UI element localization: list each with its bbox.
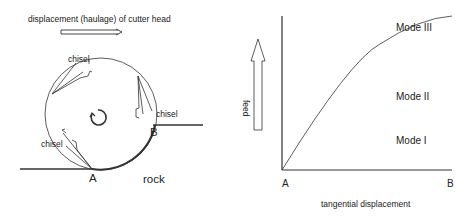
rotation-ccw-icon <box>90 110 106 125</box>
mode-2-label: Mode II <box>396 91 429 102</box>
point-b-label: B <box>150 126 158 138</box>
rock-label: rock <box>143 173 165 185</box>
contact-arc <box>92 125 155 170</box>
mode-3-label: Mode III <box>396 22 432 33</box>
feed-mode-chart: feed Mode III Mode II Mode I A B tangent… <box>241 16 454 209</box>
figure: displacement (haulage) of cutter head ch… <box>0 0 472 219</box>
chisel-label-bottom: chisel <box>41 139 63 149</box>
chisel-icon <box>136 76 152 118</box>
x-axis-label: tangential displacement <box>321 199 411 209</box>
mode-1-label: Mode I <box>396 135 427 146</box>
cutter-head-diagram: displacement (haulage) of cutter head ch… <box>20 14 203 185</box>
chisel-label-top: chisel <box>68 54 90 64</box>
feed-arrow-icon <box>251 39 265 130</box>
x-axis-start-label: A <box>282 178 289 189</box>
haulage-arrow-icon <box>61 29 122 35</box>
haulage-title: displacement (haulage) of cutter head <box>28 14 171 24</box>
y-axis-label: feed <box>241 100 251 117</box>
chisel-label-right: chisel <box>156 109 178 119</box>
x-axis-end-label: B <box>447 178 454 189</box>
chisel-icon <box>62 129 92 169</box>
point-a-label: A <box>89 172 97 184</box>
